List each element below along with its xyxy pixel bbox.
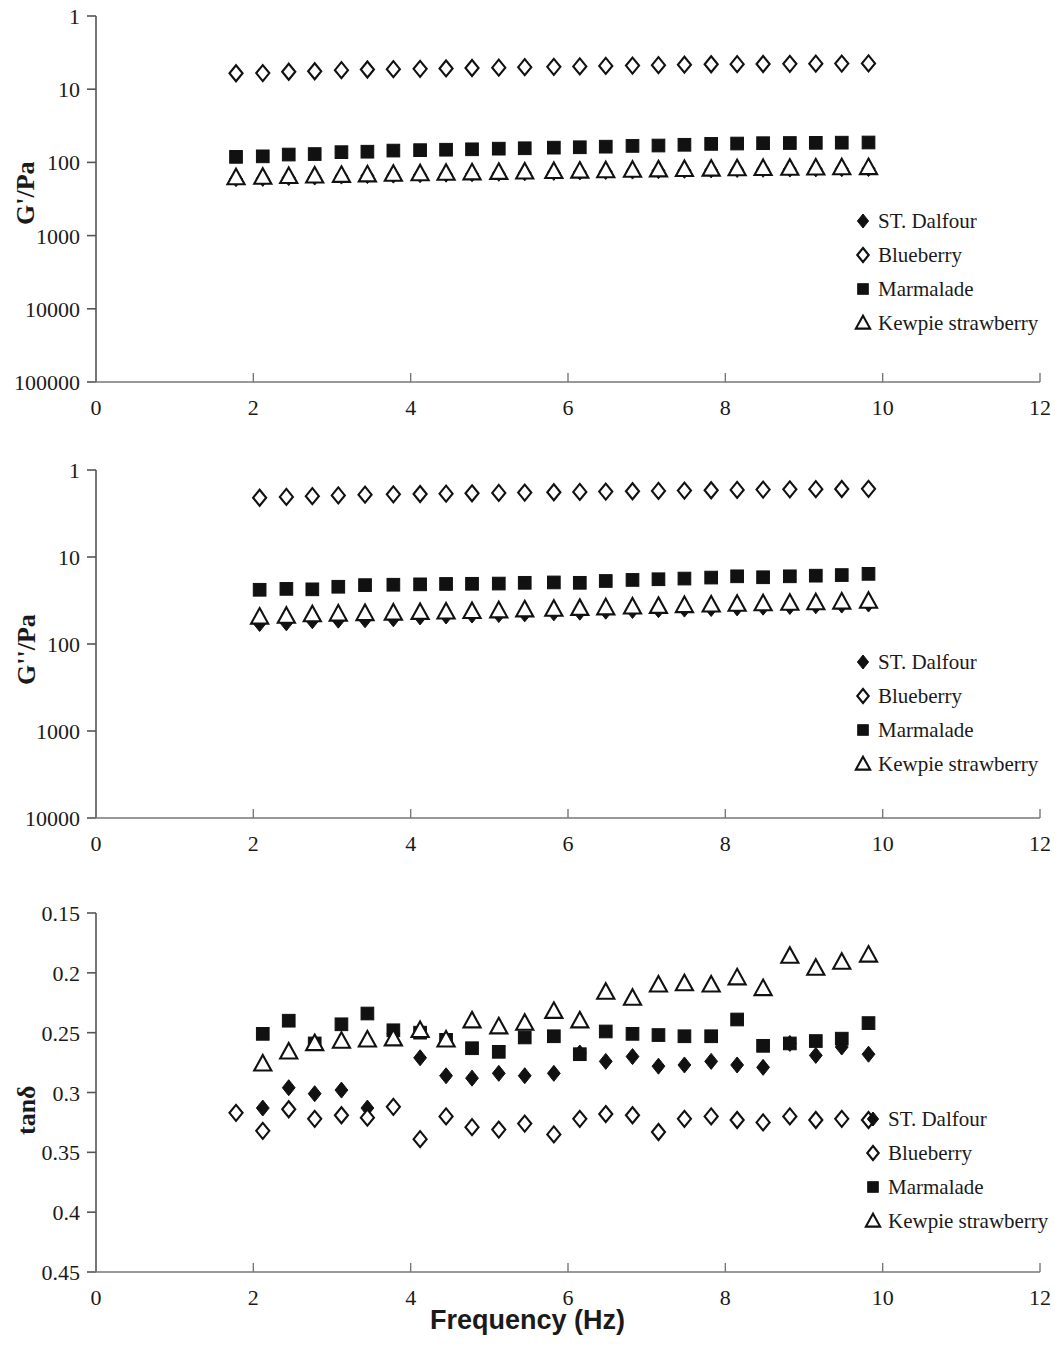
data-point — [571, 162, 588, 178]
data-point — [256, 1123, 269, 1139]
legend-label: Kewpie strawberry — [878, 754, 1038, 775]
data-point — [809, 1047, 822, 1063]
data-point — [678, 1057, 691, 1073]
data-point — [335, 146, 348, 159]
data-point — [862, 1046, 875, 1062]
data-point — [597, 599, 614, 615]
data-point — [440, 1068, 453, 1084]
legend-label: Blueberry — [888, 1143, 972, 1164]
data-point — [280, 168, 297, 184]
data-point — [547, 59, 560, 75]
data-point — [652, 483, 665, 499]
y-tick-label: 0.35 — [42, 1140, 81, 1165]
data-point — [547, 1065, 560, 1081]
y-tick-label: 0.2 — [53, 961, 81, 986]
data-point — [516, 163, 533, 179]
x-tick-label: 0 — [91, 395, 102, 420]
data-point — [807, 159, 824, 175]
data-point — [490, 602, 507, 618]
data-point — [548, 1030, 561, 1043]
data-point — [809, 569, 822, 582]
legend-label: Blueberry — [878, 686, 962, 707]
data-point — [833, 953, 850, 969]
legend-label: Marmalade — [878, 720, 974, 741]
data-point — [335, 1018, 348, 1031]
series-kewpie-strawberry — [254, 946, 877, 1070]
legend-marker — [862, 1108, 888, 1130]
data-point — [492, 577, 505, 590]
y-tick-label: 10 — [58, 545, 80, 570]
data-point — [254, 168, 271, 184]
data-point — [703, 976, 720, 992]
data-point — [652, 1029, 665, 1042]
legend-marker — [852, 278, 878, 300]
x-tick-label: 12 — [1029, 831, 1051, 856]
data-point — [703, 596, 720, 612]
data-point — [862, 136, 875, 149]
data-point — [280, 1043, 297, 1059]
data-point — [781, 159, 798, 175]
data-point — [330, 605, 347, 621]
data-point — [358, 487, 371, 503]
data-point — [705, 1053, 718, 1069]
x-tick-label: 10 — [872, 395, 894, 420]
data-point — [466, 143, 479, 156]
y-tick-label: 0.3 — [53, 1081, 81, 1106]
data-point — [731, 482, 744, 498]
data-point — [518, 142, 531, 155]
data-point — [835, 136, 848, 149]
filled-square-icon — [862, 1176, 884, 1198]
data-point — [833, 593, 850, 609]
data-point — [626, 1028, 639, 1041]
open-diamond-icon — [852, 685, 874, 707]
data-point — [626, 140, 639, 153]
series-marmalade — [230, 136, 875, 163]
data-point — [440, 60, 453, 76]
data-point — [361, 1007, 374, 1020]
data-point — [809, 1112, 822, 1128]
data-point — [755, 160, 772, 176]
x-tick-label: 6 — [563, 395, 574, 420]
legend-label: Kewpie strawberry — [888, 1211, 1048, 1232]
x-axis-title: Frequency (Hz) — [0, 1305, 1055, 1336]
data-point — [516, 601, 533, 617]
legend-label: Blueberry — [878, 245, 962, 266]
data-point — [809, 1035, 822, 1048]
data-point — [256, 65, 269, 81]
data-point — [282, 1080, 295, 1096]
data-point — [335, 1107, 348, 1123]
data-point — [862, 55, 875, 71]
data-point — [652, 573, 665, 586]
data-point — [251, 608, 268, 624]
data-point — [361, 145, 374, 158]
data-point — [835, 481, 848, 497]
data-point — [783, 481, 796, 497]
legend-label: ST. Dalfour — [878, 211, 977, 232]
filled-diamond-icon — [852, 210, 874, 232]
data-point — [308, 1111, 321, 1127]
data-point — [781, 947, 798, 963]
filled-diamond-icon — [862, 1108, 884, 1130]
data-point — [359, 166, 376, 182]
data-point — [809, 481, 822, 497]
data-point — [414, 61, 427, 77]
data-point — [359, 1031, 376, 1047]
open-diamond-icon — [852, 244, 874, 266]
data-point — [414, 578, 427, 591]
data-point — [597, 162, 614, 178]
panel2-legend: ST. DalfourBlueberryMarmaladeKewpie stra… — [852, 645, 1038, 781]
data-point — [599, 484, 612, 500]
legend-item-marmalade: Marmalade — [852, 272, 1038, 306]
data-point — [518, 1068, 531, 1084]
data-point — [757, 137, 770, 150]
data-point — [280, 583, 293, 596]
data-point — [335, 62, 348, 78]
data-point — [306, 488, 319, 504]
data-point — [705, 482, 718, 498]
data-point — [253, 490, 266, 506]
data-point — [308, 1086, 321, 1102]
x-tick-label: 12 — [1029, 395, 1051, 420]
data-point — [573, 1111, 586, 1127]
legend-marker — [852, 244, 878, 266]
data-point — [463, 1012, 480, 1028]
